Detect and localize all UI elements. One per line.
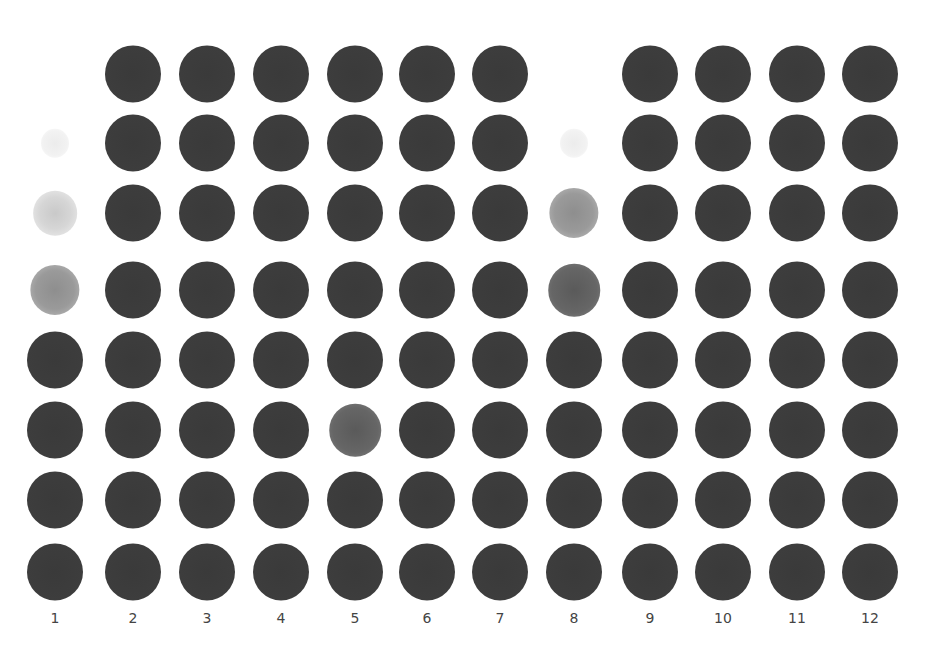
dot-r7-c6	[399, 471, 455, 528]
dot-r4-c8	[548, 264, 600, 317]
dot-r8-c12	[842, 543, 898, 600]
dot-r1-c3	[179, 45, 235, 102]
dot-r4-c6	[399, 261, 455, 318]
dot-r6-c9	[622, 401, 678, 458]
dot-r4-c4	[253, 261, 309, 318]
dot-r2-c2	[105, 114, 161, 171]
dot-r1-c9	[622, 45, 678, 102]
column-label-11: 11	[788, 610, 806, 626]
dot-r8-c2	[105, 543, 161, 600]
dot-r7-c11	[769, 471, 825, 528]
column-label-6: 6	[423, 610, 432, 626]
dot-r6-c7	[472, 401, 528, 458]
dot-r5-c1	[27, 331, 83, 388]
column-label-7: 7	[496, 610, 505, 626]
dot-r5-c7	[472, 331, 528, 388]
dot-r5-c9	[622, 331, 678, 388]
dot-r3-c5	[327, 184, 383, 241]
column-label-8: 8	[570, 610, 579, 626]
column-label-5: 5	[351, 610, 360, 626]
dot-r8-c3	[179, 543, 235, 600]
dot-r7-c9	[622, 471, 678, 528]
dot-r3-c3	[179, 184, 235, 241]
dot-r1-c6	[399, 45, 455, 102]
dot-r3-c7	[472, 184, 528, 241]
dot-r8-c9	[622, 543, 678, 600]
dot-r4-c7	[472, 261, 528, 318]
dot-r5-c10	[695, 331, 751, 388]
dot-r1-c2	[105, 45, 161, 102]
dot-r7-c2	[105, 471, 161, 528]
dot-r3-c1	[33, 191, 77, 236]
dot-r3-c10	[695, 184, 751, 241]
column-label-3: 3	[203, 610, 212, 626]
dot-r1-c5	[327, 45, 383, 102]
dot-r3-c12	[842, 184, 898, 241]
column-label-4: 4	[277, 610, 286, 626]
dot-r6-c12	[842, 401, 898, 458]
dot-r6-c11	[769, 401, 825, 458]
dot-r6-c6	[399, 401, 455, 458]
dot-r1-c10	[695, 45, 751, 102]
dot-r2-c5	[327, 114, 383, 171]
dot-r8-c7	[472, 543, 528, 600]
dot-r6-c2	[105, 401, 161, 458]
dot-r2-c9	[622, 114, 678, 171]
dot-r7-c12	[842, 471, 898, 528]
dot-r2-c4	[253, 114, 309, 171]
dot-r3-c2	[105, 184, 161, 241]
dot-r6-c10	[695, 401, 751, 458]
dot-r8-c5	[327, 543, 383, 600]
dot-r7-c8	[546, 471, 602, 528]
dot-r7-c5	[327, 471, 383, 528]
dot-r5-c5	[327, 331, 383, 388]
dot-r3-c4	[253, 184, 309, 241]
column-label-2: 2	[129, 610, 138, 626]
dot-r2-c6	[399, 114, 455, 171]
dot-r6-c3	[179, 401, 235, 458]
column-label-1: 1	[51, 610, 60, 626]
dot-r2-c10	[695, 114, 751, 171]
dot-r5-c12	[842, 331, 898, 388]
dot-r2-c11	[769, 114, 825, 171]
dot-r8-c1	[27, 543, 83, 600]
dot-r5-c4	[253, 331, 309, 388]
dot-r8-c8	[546, 543, 602, 600]
dot-r8-c4	[253, 543, 309, 600]
dot-r4-c1	[30, 265, 79, 315]
dot-r4-c12	[842, 261, 898, 318]
dot-r3-c9	[622, 184, 678, 241]
dot-r7-c10	[695, 471, 751, 528]
dot-r2-c7	[472, 114, 528, 171]
dot-r4-c3	[179, 261, 235, 318]
dot-blot-figure: 123456789101112	[0, 0, 935, 663]
dot-r3-c8	[549, 188, 598, 238]
dot-r8-c11	[769, 543, 825, 600]
dot-r2-c1	[41, 129, 69, 158]
dot-r5-c8	[546, 331, 602, 388]
column-label-9: 9	[646, 610, 655, 626]
dot-r6-c8	[546, 401, 602, 458]
dot-r4-c5	[327, 261, 383, 318]
dot-r5-c11	[769, 331, 825, 388]
dot-r8-c6	[399, 543, 455, 600]
dot-r1-c4	[253, 45, 309, 102]
dot-r1-c7	[472, 45, 528, 102]
dot-r7-c4	[253, 471, 309, 528]
dot-r6-c1	[27, 401, 83, 458]
dot-r2-c12	[842, 114, 898, 171]
dot-r4-c9	[622, 261, 678, 318]
dot-r3-c6	[399, 184, 455, 241]
dot-r7-c7	[472, 471, 528, 528]
dot-r1-c12	[842, 45, 898, 102]
column-label-12: 12	[861, 610, 879, 626]
dot-r5-c2	[105, 331, 161, 388]
dot-r7-c3	[179, 471, 235, 528]
dot-r2-c8	[560, 129, 588, 158]
dot-r5-c6	[399, 331, 455, 388]
column-label-10: 10	[714, 610, 732, 626]
dot-r7-c1	[27, 471, 83, 528]
dot-r4-c11	[769, 261, 825, 318]
dot-r8-c10	[695, 543, 751, 600]
dot-r6-c4	[253, 401, 309, 458]
